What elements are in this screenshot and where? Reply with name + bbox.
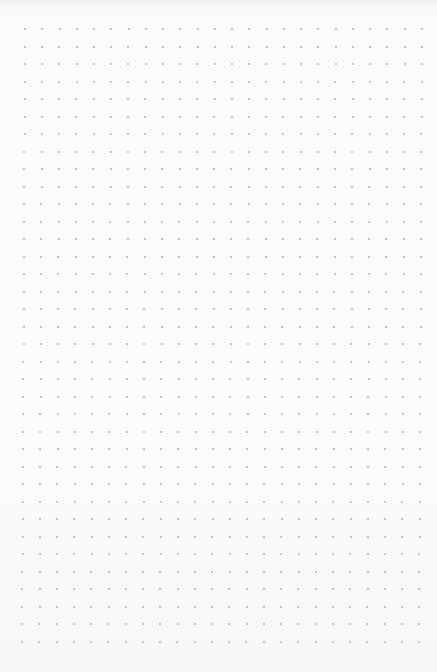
grid-dot [212,483,214,485]
grid-dot [108,413,110,415]
grid-dot [178,273,180,275]
grid-dot [420,273,422,275]
grid-dot [333,431,335,433]
grid-dot [57,273,59,275]
grid-dot [159,571,161,573]
grid-dot [316,291,318,293]
grid-dot [179,46,181,48]
grid-dot [39,413,41,415]
grid-dot [247,308,249,310]
grid-dot [282,168,284,170]
grid-dot [419,378,421,380]
grid-dot [298,466,300,468]
grid-dot [403,133,405,135]
grid-dot [196,151,198,153]
grid-dot [315,501,317,503]
grid-dot [40,291,42,293]
grid-dot [56,466,58,468]
grid-dot [213,133,215,135]
grid-dot [159,641,161,643]
grid-dot [179,133,181,135]
grid-dot [265,238,267,240]
grid-dot [385,361,387,363]
grid-dot [282,238,284,240]
grid-dot [195,326,197,328]
grid-dot [127,238,129,240]
grid-dot [300,98,302,100]
grid-dot [298,396,300,398]
grid-dot [40,221,42,223]
grid-dot [143,308,145,310]
grid-dot [333,413,335,415]
grid-dot [246,571,248,573]
grid-dot [421,81,423,83]
grid-dot [420,151,422,153]
grid-dot [247,273,249,275]
grid-dot [39,536,41,538]
grid-dot [334,116,336,118]
grid-dot [41,133,43,135]
grid-dot [24,133,26,135]
grid-dot [211,588,213,590]
grid-dot [334,221,336,223]
grid-dot [110,81,112,83]
grid-dot [57,361,59,363]
grid-dot [56,483,58,485]
grid-dot [91,483,93,485]
grid-dot [421,46,423,48]
grid-dot [384,553,386,555]
grid-dot [281,326,283,328]
grid-dot [282,221,284,223]
grid-dot [143,326,145,328]
grid-dot [297,623,299,625]
grid-dot [58,151,60,153]
grid-dot [280,553,282,555]
grid-dot [196,98,198,100]
grid-dot [298,413,300,415]
grid-dot [248,28,250,30]
grid-dot [402,483,404,485]
grid-dot [404,63,406,65]
grid-dot [315,588,317,590]
grid-dot [143,501,145,503]
grid-dot [315,448,317,450]
grid-dot [316,238,318,240]
grid-dot [280,623,282,625]
grid-dot [213,168,215,170]
grid-dot [194,518,196,520]
grid-dot [247,221,249,223]
grid-dot [385,396,387,398]
grid-dot [125,536,127,538]
grid-dot [58,168,60,170]
grid-dot [315,518,317,520]
grid-dot [402,396,404,398]
grid-dot [386,63,388,65]
grid-dot [368,308,370,310]
grid-dot [385,238,387,240]
grid-dot [281,466,283,468]
grid-dot [177,518,179,520]
grid-dot [76,63,78,65]
grid-dot [23,326,25,328]
grid-dot [41,151,43,153]
grid-dot [110,116,112,118]
grid-dot [195,431,197,433]
grid-dot [282,186,284,188]
grid-dot [418,553,420,555]
grid-dot [127,81,129,83]
grid-dot [418,571,420,573]
grid-dot [403,256,405,258]
grid-dot [281,431,283,433]
grid-dot [386,28,388,30]
grid-dot [162,63,164,65]
grid-dot [57,448,59,450]
grid-dot [283,46,285,48]
grid-dot [333,326,335,328]
grid-dot [349,623,351,625]
grid-dot [73,623,75,625]
grid-dot [213,308,215,310]
grid-dot [75,133,77,135]
grid-dot [23,203,25,205]
grid-dot [160,553,162,555]
grid-dot [248,133,250,135]
